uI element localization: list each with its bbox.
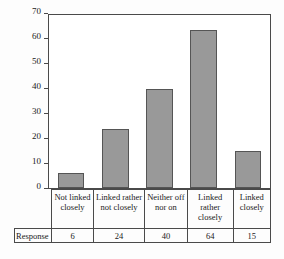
value-cell: 40: [145, 229, 188, 243]
y-axis-tick-mark: [44, 163, 48, 164]
category-label-cell: Neither off nor on: [145, 190, 188, 229]
value-cell: 24: [94, 229, 145, 243]
bar[interactable]: [146, 89, 173, 188]
y-axis-tick-mark: [44, 63, 48, 64]
category-label-cell: Not linked closely: [52, 190, 94, 229]
bar-cell: [49, 15, 93, 188]
bar[interactable]: [102, 129, 129, 188]
bar-cell: [93, 15, 137, 188]
bar-cell: [137, 15, 181, 188]
y-axis-tick-label: 30: [32, 107, 41, 116]
table-corner-blank: [15, 190, 52, 229]
table-row-category-labels: Not linked closelyLinked rather not clos…: [15, 190, 271, 229]
bar[interactable]: [190, 30, 217, 188]
y-axis-tick-label: 60: [32, 32, 41, 41]
y-axis-tick-mark: [44, 113, 48, 114]
table-row: Response 624406415: [15, 229, 271, 243]
bar-chart-figure: 010203040506070 Not linked closelyLinked…: [0, 0, 284, 259]
category-label-cell: Linked rather closely: [187, 190, 233, 229]
y-axis-tick-label: 10: [32, 157, 41, 166]
y-axis-tick-mark: [44, 13, 48, 14]
plot-area: [48, 14, 271, 189]
bar-cell: [182, 15, 226, 188]
bar[interactable]: [58, 173, 85, 188]
category-label-cell: Linked rather not closely: [94, 190, 145, 229]
y-axis-tick-label: 70: [32, 7, 41, 16]
category-label-cell: Linked closely: [233, 190, 270, 229]
value-cell: 6: [52, 229, 94, 243]
y-axis-tick-mark: [44, 138, 48, 139]
bars-group: [49, 15, 270, 188]
y-axis-tick-label: 20: [32, 132, 41, 141]
bar[interactable]: [235, 151, 262, 188]
y-axis-tick-mark: [44, 38, 48, 39]
data-table: Not linked closelyLinked rather not clos…: [14, 189, 271, 243]
y-axis-tick-label: 50: [32, 57, 41, 66]
value-cell: 15: [233, 229, 270, 243]
bar-cell: [226, 15, 270, 188]
y-axis-tick-mark: [44, 88, 48, 89]
row-header-response: Response: [15, 229, 52, 243]
y-axis-tick-label: 40: [32, 82, 41, 91]
value-cell: 64: [187, 229, 233, 243]
